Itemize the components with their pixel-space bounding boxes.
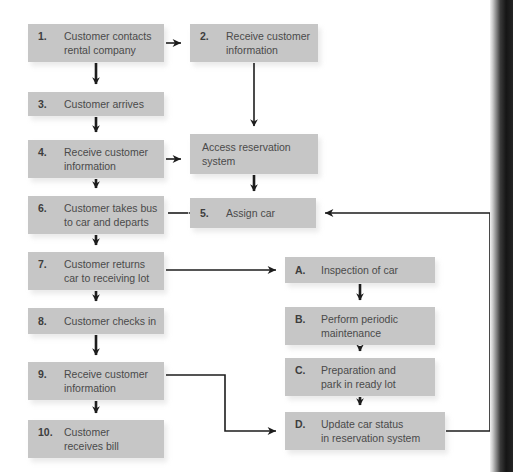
node-label-line: Customer checks in — [64, 315, 156, 327]
node-label-line: system — [202, 155, 236, 167]
page-edge-shadow — [490, 0, 513, 472]
node-number: 8. — [38, 315, 47, 327]
node-label-line: park in ready lot — [321, 378, 396, 390]
flow-node-n2: 2.Receive customerinformation — [190, 24, 318, 62]
node-label-line: maintenance — [321, 327, 381, 339]
flow-node-nD: D.Update car statusin reservation system — [285, 412, 445, 450]
node-number: 7. — [38, 258, 47, 270]
flow-node-n10: 10.Customerreceives bill — [28, 420, 164, 458]
flow-node-n1: 1.Customer contactsrental company — [28, 24, 164, 62]
flowchart-page: 1.Customer contactsrental company2.Recei… — [0, 0, 513, 472]
node-label-line: Assign car — [226, 207, 276, 219]
flow-node-n6: 6.Customer takes busto car and departs — [28, 196, 164, 234]
node-label-line: car to receiving lot — [64, 272, 149, 284]
edge-n9-nD — [166, 375, 276, 431]
flow-node-n9: 9.Receive customerinformation — [28, 362, 164, 400]
node-number: A. — [295, 264, 306, 276]
node-label-line: Customer contacts — [64, 30, 152, 42]
flow-node-nA: A.Inspection of car — [285, 257, 435, 283]
node-number: 2. — [200, 30, 209, 42]
node-label-line: Update car status — [321, 418, 403, 430]
node-label-line: Customer arrives — [64, 98, 144, 110]
node-label-line: information — [64, 160, 116, 172]
node-label-line: Perform periodic — [321, 313, 398, 325]
node-number: 6. — [38, 202, 47, 214]
node-label-line: Customer takes bus — [64, 202, 157, 214]
node-label-line: information — [64, 382, 116, 394]
node-number: 10. — [38, 426, 53, 438]
node-label-line: in reservation system — [321, 432, 420, 444]
node-label-line: Customer — [64, 426, 110, 438]
node-number: D. — [295, 418, 306, 430]
node-label-line: Receive customer — [226, 30, 311, 42]
flow-node-n8: 8.Customer checks in — [28, 308, 164, 334]
flow-node-n3: 3.Customer arrives — [28, 92, 164, 116]
node-label-line: Inspection of car — [321, 264, 399, 276]
node-number: 4. — [38, 146, 47, 158]
node-number: 3. — [38, 98, 47, 110]
node-label-line: Receive customer — [64, 368, 149, 380]
flow-node-nC: C.Preparation andpark in ready lot — [285, 358, 435, 396]
node-label-line: Customer returns — [64, 258, 145, 270]
node-number: 1. — [38, 30, 47, 42]
node-label-line: Preparation and — [321, 364, 396, 376]
node-number: 9. — [38, 368, 47, 380]
node-number: 5. — [200, 207, 209, 219]
flow-node-n4: 4.Receive customerinformation — [28, 140, 164, 178]
flowchart-canvas: 1.Customer contactsrental company2.Recei… — [0, 0, 513, 472]
flow-node-n5: 5.Assign car — [190, 198, 316, 228]
node-label-line: Receive customer — [64, 146, 149, 158]
node-label-line: Access reservation — [202, 141, 291, 153]
node-label-line: information — [226, 44, 278, 56]
node-number: B. — [295, 313, 306, 325]
flow-node-n7: 7.Customer returnscar to receiving lot — [28, 252, 164, 290]
node-label-line: rental company — [64, 44, 137, 56]
node-label-line: to car and departs — [64, 216, 149, 228]
flow-nodes: 1.Customer contactsrental company2.Recei… — [28, 24, 445, 458]
flow-node-nB: B.Perform periodicmaintenance — [285, 307, 435, 345]
flow-node-nacc: Access reservationsystem — [190, 134, 318, 174]
node-label-line: receives bill — [64, 440, 119, 452]
node-number: C. — [295, 364, 306, 376]
